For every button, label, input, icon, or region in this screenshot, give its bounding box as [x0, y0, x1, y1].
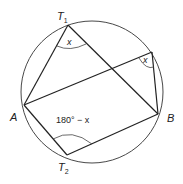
angle-arc-t2	[53, 135, 92, 144]
angle-label-c: x	[142, 55, 148, 65]
geometry-diagram: T1 A B T2 x x 180° − x	[0, 0, 183, 184]
angle-arc-t1	[57, 44, 86, 49]
label-b: B	[167, 112, 174, 124]
angle-label-t1: x	[66, 37, 72, 47]
label-t1: T1	[57, 10, 68, 24]
segment-a-t2	[24, 105, 67, 155]
segment-a-c	[24, 52, 152, 105]
segments	[24, 25, 158, 155]
diagram-canvas: T1 A B T2 x x 180° − x	[0, 0, 183, 184]
segment-t1-b	[68, 25, 158, 114]
angle-arcs	[53, 44, 154, 144]
label-t2: T2	[58, 161, 69, 175]
segment-c-b	[152, 52, 158, 114]
label-a: A	[9, 111, 17, 123]
segment-t1-a	[24, 25, 68, 105]
angle-label-t2: 180° − x	[56, 115, 90, 125]
circle	[21, 21, 163, 163]
